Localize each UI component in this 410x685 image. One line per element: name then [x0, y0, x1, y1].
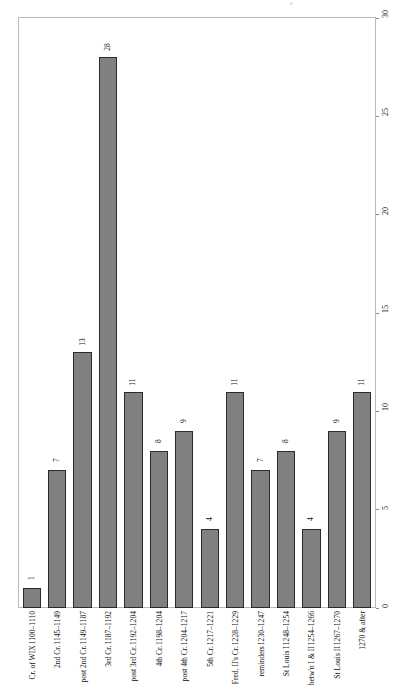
- x-axis-category-label-line: St Louis I: [281, 646, 290, 676]
- bar[interactable]: 11: [226, 392, 244, 608]
- x-axis-category-label-line: betw'n I & II: [307, 646, 316, 685]
- x-axis-label-slot: 1270 & after: [349, 611, 374, 675]
- x-axis-category-label: 1149–1187post 2nd Cr.: [78, 611, 87, 683]
- x-axis-label-slot: 1192–1204post 3rd Cr.: [121, 611, 146, 675]
- bar[interactable]: 28: [99, 57, 117, 608]
- x-axis-category-label-line: 1100–1110: [27, 611, 36, 644]
- bar-value-label: 9: [333, 419, 341, 423]
- bar-slot: 4: [197, 18, 222, 608]
- x-axis-label-slot: 1204–1217post 4th Cr.: [172, 611, 197, 675]
- y-axis-tick-mark: [376, 411, 379, 412]
- bar[interactable]: 8: [150, 451, 168, 608]
- x-axis-label-slot: 1149–1187post 2nd Cr.: [70, 611, 95, 675]
- x-axis-category-label-line: St Louis II: [332, 646, 341, 679]
- bar[interactable]: 13: [73, 352, 91, 608]
- y-axis-tick-mark: [376, 18, 379, 19]
- bar-slot: 4: [299, 18, 324, 608]
- bar[interactable]: 7: [48, 470, 66, 608]
- x-axis-category-label-line: Cr. of WIX: [27, 645, 36, 679]
- x-axis-category-label-line: 1204–1217: [180, 611, 189, 645]
- y-axis-tick-label: 25: [382, 108, 390, 116]
- bar[interactable]: 11: [124, 392, 142, 608]
- x-axis-category-label-line: 1270 & after: [358, 611, 367, 650]
- bar-slot: 13: [70, 18, 95, 608]
- x-axis-label-slot: 1198–12044th Cr.: [146, 611, 171, 675]
- x-axis-category-label-line: 1230–1247: [256, 611, 265, 645]
- bar-value-label: 8: [282, 439, 290, 443]
- y-axis-tick-label: 5: [382, 506, 390, 510]
- x-axis-category-label: 1217–12215th Cr.: [205, 611, 214, 667]
- x-axis-category-label: 1100–1110Cr. of WIX: [27, 611, 36, 680]
- x-axis-category-label-line: 1149–1187: [78, 611, 87, 645]
- bar[interactable]: 8: [277, 451, 295, 608]
- x-axis-category-label: 1198–12044th Cr.: [154, 611, 163, 667]
- x-axis-category-label: 1204–1217post 4th Cr.: [180, 611, 189, 681]
- bar-value-label: 8: [155, 439, 163, 443]
- x-axis-category-label-line: post 4th Cr.: [180, 646, 189, 681]
- x-axis-category-label-line: 1228–1229: [231, 611, 240, 645]
- x-axis-labels: 1100–1110Cr. of WIX1145–11492nd Cr.1149–…: [19, 611, 375, 675]
- bar-slot: 9: [172, 18, 197, 608]
- x-axis-category-label: 1254–1266betw'n I & II: [307, 611, 316, 685]
- x-axis-label-slot: 1217–12215th Cr.: [197, 611, 222, 675]
- x-axis-label-slot: 1230–1247reminders: [248, 611, 273, 675]
- bar-slot: 9: [324, 18, 349, 608]
- x-axis-label-slot: 1100–1110Cr. of WIX: [19, 611, 44, 675]
- bar-value-label: 11: [231, 378, 239, 385]
- x-axis-label-slot: 1145–11492nd Cr.: [44, 611, 69, 675]
- bar-value-label: 11: [129, 378, 137, 385]
- bar[interactable]: 11: [353, 392, 371, 608]
- x-axis-category-label-line: 1217–1221: [205, 611, 214, 645]
- x-axis-category-label-line: 1187–1192: [103, 611, 112, 645]
- x-axis-category-label: 1192–1204post 3rd Cr.: [129, 611, 138, 682]
- x-axis-category-label: 1230–1247reminders: [256, 611, 265, 677]
- y-axis-tick-mark: [376, 214, 379, 215]
- y-axis-tick-mark: [376, 313, 379, 314]
- x-axis-category-label-line: post 3rd Cr.: [129, 646, 138, 682]
- bar-value-label: 13: [79, 338, 87, 346]
- x-axis-category-label-line: 4th Cr.: [154, 646, 163, 667]
- bar[interactable]: 7: [251, 470, 269, 608]
- bar[interactable]: 1: [23, 588, 41, 608]
- y-axis-tick-label: 15: [382, 305, 390, 313]
- x-axis-category-label-line: 1192–1204: [129, 611, 138, 645]
- y-axis: 051015202530: [376, 17, 410, 608]
- x-axis-category-label-line: post 2nd Cr.: [78, 646, 87, 683]
- bar-value-label: 28: [104, 43, 112, 51]
- x-axis-category-label-line: 5th Cr.: [205, 646, 214, 667]
- bar-slot: 1: [19, 18, 44, 608]
- x-axis-category-label: 1145–11492nd Cr.: [53, 611, 62, 668]
- bar-value-label: 4: [307, 517, 315, 521]
- y-axis-tick-mark: [376, 509, 379, 510]
- bar-slot: 8: [146, 18, 171, 608]
- bar-value-label: 7: [257, 458, 265, 462]
- x-axis-category-label-line: 3rd Cr.: [103, 646, 112, 667]
- y-axis-tick-mark: [376, 608, 379, 609]
- bar[interactable]: 4: [302, 529, 320, 608]
- y-axis-tick-label: 0: [382, 604, 390, 608]
- bar[interactable]: 9: [175, 431, 193, 608]
- bar-slot: 11: [121, 18, 146, 608]
- bar-value-label: 9: [180, 419, 188, 423]
- bar-slot: 11: [349, 18, 374, 608]
- y-axis-tick-mark: [376, 116, 379, 117]
- bar[interactable]: 9: [328, 431, 346, 608]
- x-axis-label-slot: 1187–11923rd Cr.: [95, 611, 120, 675]
- x-axis-category-label-line: reminders: [256, 646, 265, 676]
- bar[interactable]: 4: [201, 529, 219, 608]
- bar-value-label: 1: [28, 576, 36, 580]
- bar-slot: 28: [95, 18, 120, 608]
- x-axis-category-label-line: 1145–1149: [53, 611, 62, 645]
- x-axis-label-slot: 1228–1229Fred. II's Cr.: [222, 611, 247, 675]
- bar-slot: 7: [44, 18, 69, 608]
- x-axis-category-label-line: 2nd Cr.: [53, 646, 62, 668]
- x-axis-label-slot: 1254–1266betw'n I & II: [299, 611, 324, 675]
- x-axis-label-slot: 1248–1254St Louis I: [273, 611, 298, 675]
- y-axis-tick-label: 10: [382, 403, 390, 411]
- page-artifact-mark: [290, 2, 293, 5]
- bar-value-label: 7: [53, 458, 61, 462]
- x-axis-category-label: 1187–11923rd Cr.: [103, 611, 112, 667]
- bar-slot: 8: [273, 18, 298, 608]
- bar-slot: 11: [222, 18, 247, 608]
